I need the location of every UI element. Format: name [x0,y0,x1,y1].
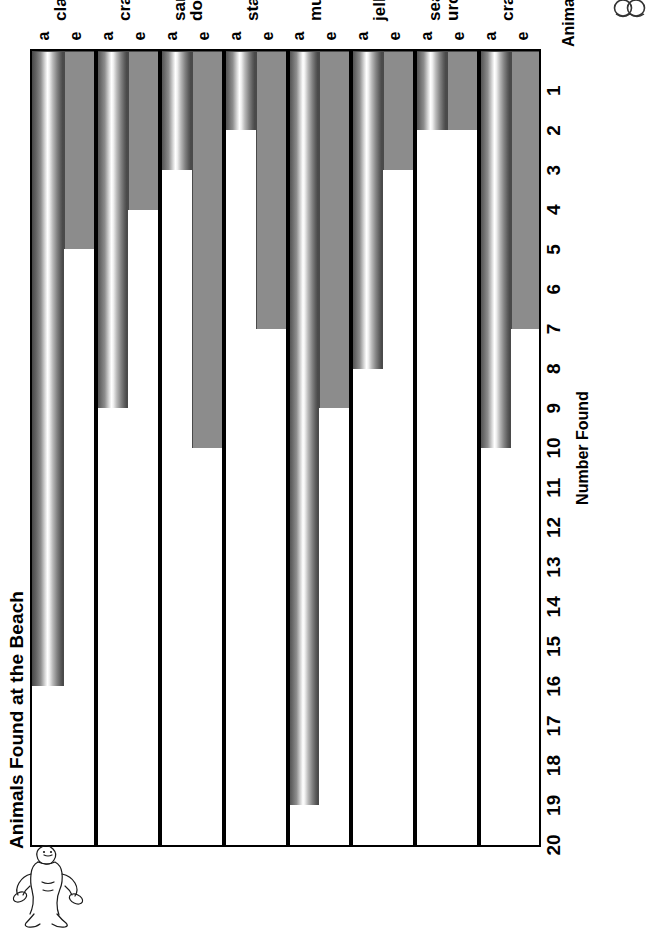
bar-series-e [383,51,415,170]
y-tick-label: 1 [543,76,565,106]
series-a-sublabel: a [354,25,372,47]
y-tick-label: 18 [543,751,565,781]
bar-series-a [32,51,64,686]
bar-series-e [192,51,224,448]
bar-row [160,51,192,845]
bar-row [192,51,224,845]
bar-row [479,51,511,845]
y-tick-label: 19 [543,790,565,820]
category-label: crayfish [499,0,516,21]
bar-row [351,51,383,845]
category-label: clams [52,0,69,21]
bar-series-e [511,51,541,329]
y-tick-label: 7 [543,314,565,344]
y-tick-label: 16 [543,671,565,701]
series-e-sublabel: e [386,25,404,47]
y-axis-tick-labels: 2019181716151413121110987654321 [543,49,573,847]
bar-row [128,51,160,845]
series-e-sublabel: e [67,25,85,47]
series-e-sublabel: e [131,25,149,47]
group-separator [94,51,98,845]
y-tick-label: 17 [543,711,565,741]
bar-row [64,51,96,845]
group-separator [222,51,226,845]
group-separator [413,51,417,845]
bar-row [447,51,479,845]
chart-page: Animals Found at the Beach 2019181716151… [0,0,654,931]
y-tick-label: 20 [543,830,565,860]
bar-series-a [415,51,447,130]
category-label: crabs [116,0,133,21]
y-tick-label: 9 [543,393,565,423]
bar-row [319,51,351,845]
y-axis-title: Number Found [574,49,592,847]
x-axis-title: Animals [560,0,578,47]
y-tick-label: 11 [543,473,565,503]
bar-row [511,51,541,845]
y-tick-label: 5 [543,235,565,265]
bar-row [288,51,320,845]
category-label: mussels [307,0,324,21]
series-a-sublabel: a [227,25,245,47]
group-separator [477,51,481,845]
bar-series-e [64,51,96,250]
category-label: sanddollars [171,0,206,21]
beach-figure-clipart [10,842,86,928]
bar-series-e [128,51,160,210]
series-a-sublabel: a [482,25,500,47]
bar-series-e [319,51,351,408]
group-separator [286,51,290,845]
group-separator [158,51,162,845]
y-tick-label: 12 [543,512,565,542]
bar-series-e [447,51,479,130]
bar-series-e [256,51,288,329]
bar-row [415,51,447,845]
y-tick-label: 15 [543,632,565,662]
bar-row [96,51,128,845]
bar-row [383,51,415,845]
series-a-sublabel: a [418,25,436,47]
y-tick-label: 2 [543,115,565,145]
y-tick-label: 14 [543,592,565,622]
series-e-sublabel: e [322,25,340,47]
y-tick-label: 3 [543,155,565,185]
series-e-sublabel: e [195,25,213,47]
bar-row [32,51,64,845]
series-e-sublabel: e [259,25,277,47]
bar-series-a [288,51,320,805]
bar-series-a [160,51,192,170]
bar-series-a [351,51,383,369]
y-tick-label: 8 [543,354,565,384]
series-e-sublabel: e [514,25,532,47]
bar-row [224,51,256,845]
bar-series-a [224,51,256,130]
y-tick-label: 10 [543,433,565,463]
bar-row [256,51,288,845]
series-a-sublabel: a [290,25,308,47]
y-tick-label: 6 [543,274,565,304]
bar-series-a [96,51,128,408]
series-a-sublabel: a [35,25,53,47]
plot-area [30,49,541,847]
x-axis-category-labels: aeclamsaecrabsaesanddollarsaestarfishaem… [30,0,541,47]
series-a-sublabel: a [99,25,117,47]
y-tick-label: 13 [543,552,565,582]
chart-title: Animals Found at the Beach [6,149,28,849]
series-e-sublabel: e [450,25,468,47]
bar-series-a [479,51,511,448]
rotated-chart-frame: Animals Found at the Beach 2019181716151… [0,0,654,931]
category-label: starfish [244,0,261,21]
category-label: jellyfish [371,0,388,21]
series-a-sublabel: a [163,25,181,47]
group-separator [349,51,353,845]
y-tick-label: 4 [543,195,565,225]
category-label: seaurchins [426,0,461,21]
